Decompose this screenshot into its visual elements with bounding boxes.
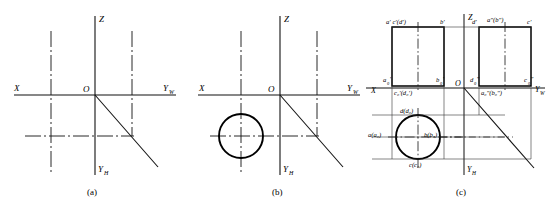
- panel-a-label-yh-sub: H: [103, 170, 109, 176]
- panel-c-label-side-top-right: c′: [527, 18, 532, 25]
- panel-c-miter-line: [464, 88, 534, 168]
- panel-c-label-yw-sub: W: [540, 90, 545, 96]
- panel-c-label-side-bottom-left-group: d 0 ″: [470, 75, 480, 86]
- panel-c-label-side-bottom-right: c: [524, 76, 527, 83]
- panel-a-label-origin: O: [83, 84, 90, 94]
- panel-a-label-yw-sub: W: [169, 89, 175, 95]
- panel-b: X Y W Z O Y H (b): [198, 14, 360, 197]
- panel-c-label-side-axis: a₀″(b₀″): [481, 89, 502, 97]
- panel-c-label-side-bottom-left-prime: ″: [477, 75, 480, 82]
- panel-c-label-top-upper: d(d₀): [400, 107, 413, 115]
- panel-a-miter-line: [95, 95, 158, 167]
- panel-b-caption: (b): [272, 187, 283, 197]
- panel-c-label-side-top-mid: a″(b″): [487, 16, 503, 24]
- panel-c-label-front-axis: c₀′(d₀′): [394, 89, 412, 97]
- panel-c-label-top-lower: c(c₀): [409, 161, 422, 169]
- panel-c-label-yh-sub: H: [471, 170, 477, 176]
- panel-b-miter-line: [280, 95, 343, 167]
- panel-c-label-top-right: b(b₀): [424, 131, 437, 139]
- panel-c-label-front-bottom-right-group: b 0 ′: [436, 75, 445, 86]
- panel-c-label-z: Z: [468, 13, 473, 22]
- panel-c-label-front-top-left: a′ c′(d′): [386, 18, 406, 26]
- panel-c-label-top-left: a(a₀): [368, 131, 381, 139]
- panel-c-label-front-top-right: b′: [440, 18, 445, 25]
- panel-b-label-x: X: [198, 83, 205, 93]
- panel-b-label-yw-sub: W: [353, 89, 359, 95]
- projection-diagram-svg: X Y W Z O Y H (a) X Y W Z O Y H (b): [0, 0, 548, 209]
- panel-c-label-front-bottom-left-group: a 0 ′: [383, 75, 392, 86]
- panel-c-label-front-bottom-left-prime: ′: [390, 75, 392, 82]
- panel-c-label-side-bottom-right-group: c 0 ″: [524, 75, 534, 86]
- panel-c-label-origin: O: [455, 79, 461, 88]
- panel-c-label-side-top-left: d′: [472, 18, 477, 25]
- panel-c-label-x: X: [370, 86, 377, 95]
- panel-c: a′ c′(d′) b′ d′ a″(b″) c′ a 0 ′ b 0 ′ d …: [366, 13, 545, 197]
- panel-c-label-side-bottom-right-prime: ″: [531, 75, 534, 82]
- technical-drawing-figure: X Y W Z O Y H (a) X Y W Z O Y H (b): [0, 0, 548, 209]
- panel-b-label-z: Z: [284, 14, 290, 24]
- panel-b-label-origin: O: [268, 84, 275, 94]
- panel-c-caption: (c): [456, 187, 466, 197]
- panel-a-caption: (a): [87, 187, 97, 197]
- panel-a: X Y W Z O Y H (a): [13, 14, 176, 197]
- panel-a-label-x: X: [13, 83, 20, 93]
- panel-a-label-z: Z: [99, 14, 105, 24]
- panel-b-label-yh-sub: H: [288, 170, 294, 176]
